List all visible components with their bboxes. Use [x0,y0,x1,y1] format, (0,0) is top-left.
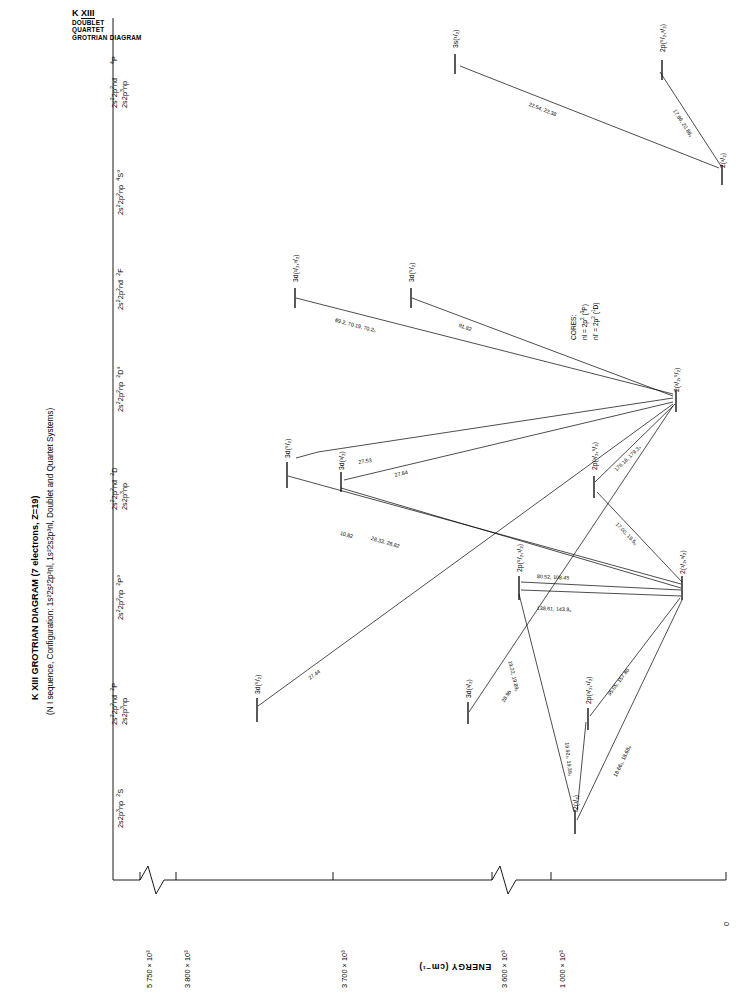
transition-line-5a [296,452,318,458]
transition-line-11 [595,404,675,482]
transition-line-6 [344,402,673,480]
level-label-7: 3d(³/₂) [338,451,345,470]
transition-line-9 [258,404,673,706]
transition-line-3 [296,298,673,394]
transition-line-4 [412,298,673,396]
level-label-14: 2(¹/₂) [572,795,579,810]
transition-line-2 [660,72,721,166]
level-label-1: 2p(⁵/₂,³/₂) [659,24,666,52]
grotrian-diagram: K XIII DOUBLET QUARTET GROTRIAN DIAGRAM … [0,0,739,1008]
diagram-canvas [0,0,739,1008]
level-label-4: 3d(⁵/₂) [408,263,415,282]
level-label-2: 2(³/₂) [719,153,726,168]
level-label-9: 2p(⁵/₂,¹/₂) [516,544,523,572]
transition-lines [258,66,721,820]
transition-line-10 [469,406,673,712]
axis-break-1 [140,866,164,894]
transition-line-14 [521,590,681,596]
level-label-13: 2p(³/₂,¹/₂) [585,676,592,704]
level-label-6: 3d(⁵/₂) [284,439,291,458]
level-label-11: 3d(⁵/₂) [254,675,261,694]
transition-line-18 [577,600,682,820]
level-label-0: 3s(¹/₂) [452,30,459,49]
energy-level-marks [257,54,722,834]
level-label-8: 2p(³/₂,⁵/₂) [591,442,598,470]
level-label-10: 2(¹/₂,³/₂) [679,550,686,574]
transition-line-13 [521,582,681,590]
level-label-5: 2(³/₂,⁵/₂) [673,368,680,392]
level-label-12: 3d(³/₂) [465,679,472,698]
transition-line-12 [597,492,682,582]
level-label-3: 3d(¹/₂,³/₂) [292,254,299,282]
transition-line-15 [519,594,574,812]
axis-break-2 [492,866,516,894]
